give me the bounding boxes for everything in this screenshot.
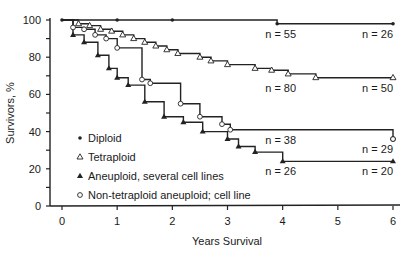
n-annotation: n = 29	[362, 143, 393, 155]
x-tick-label: 1	[114, 215, 120, 227]
x-tick-label: 4	[280, 215, 286, 227]
n-annotation: n = 80	[265, 82, 296, 94]
legend-item-2: Aneuploid, several cell lines	[77, 170, 224, 182]
y-axis-label: Survivors, %	[4, 82, 16, 144]
y-tick-label: 40	[29, 126, 41, 138]
survival-chart: 0123456020406080100 n = 55n = 26n = 80n …	[0, 0, 414, 259]
legend-label: Aneuploid, several cell lines	[88, 170, 224, 182]
n-annotation: n = 38	[265, 134, 296, 146]
series-1	[62, 20, 396, 80]
n-annotation: n = 26	[265, 165, 296, 177]
y-tick-label: 20	[29, 163, 41, 175]
legend-item-1: Tetraploid	[77, 151, 136, 163]
legend: DiploidTetraploidAneuploid, several cell…	[77, 132, 251, 201]
legend-item-0: Diploid	[78, 132, 121, 144]
x-tick-label: 0	[59, 215, 65, 227]
n-annotation: n = 20	[362, 165, 393, 177]
y-tick-label: 100	[23, 14, 41, 26]
x-tick-label: 2	[169, 215, 175, 227]
x-tick-label: 5	[335, 215, 341, 227]
x-tick-label: 6	[390, 215, 396, 227]
legend-label: Diploid	[88, 132, 122, 144]
x-tick-label: 3	[224, 215, 230, 227]
series-3	[62, 20, 395, 141]
legend-label: Non-tetraploid aneuploid; cell line	[88, 189, 251, 201]
n-annotation: n = 26	[362, 28, 393, 40]
legend-label: Tetraploid	[88, 151, 136, 163]
n-annotation: n = 55	[265, 28, 296, 40]
y-tick-label: 80	[29, 51, 41, 63]
n-annotations: n = 55n = 26n = 80n = 50n = 26n = 20n = …	[265, 28, 393, 178]
legend-item-3: Non-tetraploid aneuploid; cell line	[78, 189, 251, 201]
n-annotation: n = 50	[362, 82, 393, 94]
y-tick-label: 0	[35, 200, 41, 212]
x-axis-label: Years Survival	[192, 235, 262, 247]
y-tick-label: 60	[29, 88, 41, 100]
x-axis-line	[50, 205, 400, 206]
series-0	[60, 18, 395, 25]
